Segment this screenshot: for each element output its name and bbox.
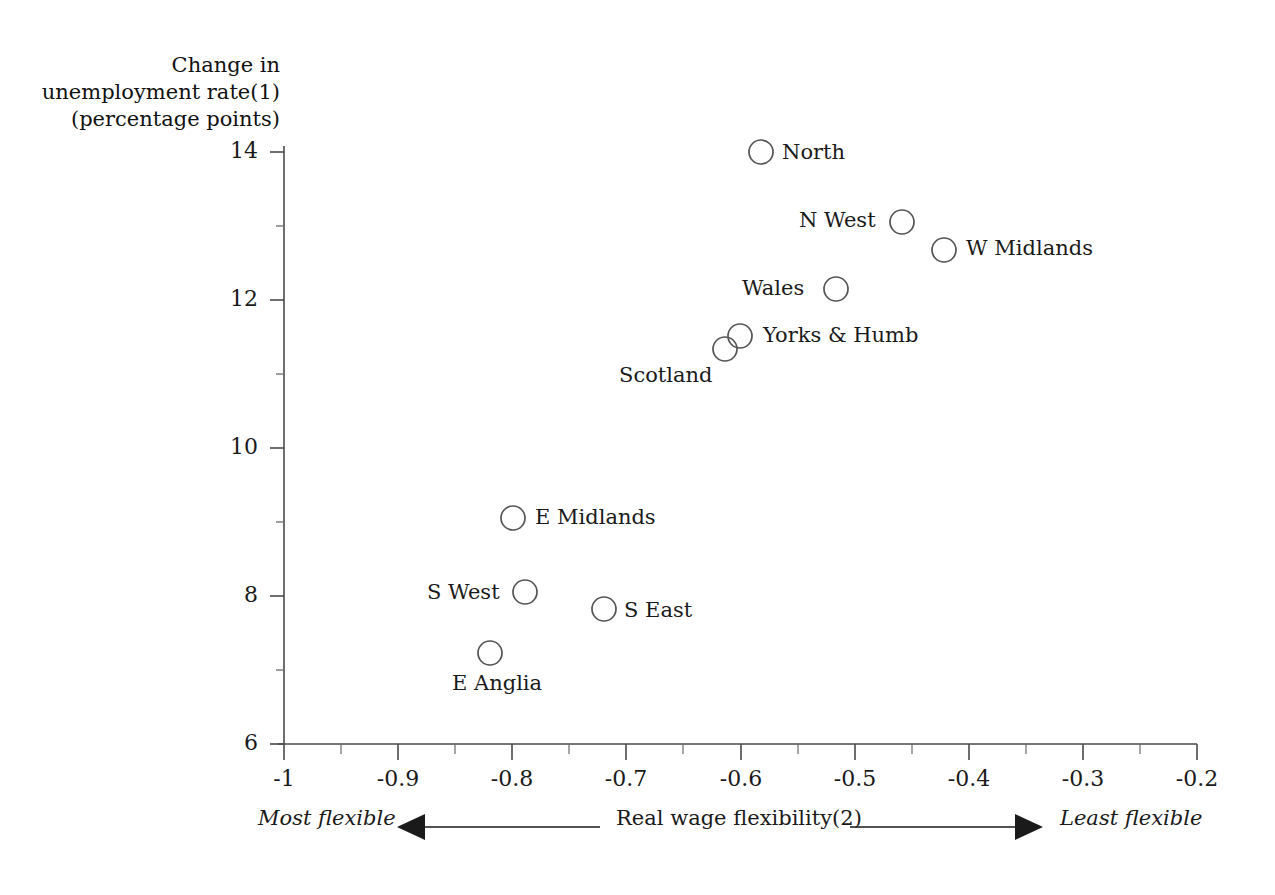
- point-label-e-midlands: E Midlands: [535, 505, 656, 529]
- marker-w-midlands[interactable]: [932, 238, 956, 262]
- x-tick-label-2: -0.8: [472, 766, 552, 791]
- point-label-wales: Wales: [742, 276, 804, 300]
- point-label-north: North: [782, 140, 845, 164]
- y-tick-label-10: 10: [210, 434, 258, 459]
- data-markers: [478, 140, 956, 665]
- x-axis-caption: Most flexible Real wage flexibility(2) L…: [0, 806, 1275, 846]
- point-label-w-midlands: W Midlands: [966, 236, 1093, 260]
- y-axis-major-ticks: [270, 152, 284, 744]
- marker-e-midlands[interactable]: [501, 506, 525, 530]
- x-tick-label-7: -0.3: [1043, 766, 1123, 791]
- marker-north[interactable]: [749, 140, 773, 164]
- y-tick-label-6: 6: [210, 730, 258, 755]
- x-tick-label-3: -0.7: [586, 766, 666, 791]
- marker-wales[interactable]: [824, 277, 848, 301]
- marker-s-west[interactable]: [513, 580, 537, 604]
- point-label-s-west: S West: [427, 580, 500, 604]
- plot-area: [0, 0, 1275, 895]
- x-tick-label-6: -0.4: [929, 766, 1009, 791]
- point-label-scotland: Scotland: [619, 363, 712, 387]
- marker-e-anglia[interactable]: [478, 641, 502, 665]
- point-label-n-west: N West: [799, 208, 876, 232]
- y-tick-label-14: 14: [210, 138, 258, 163]
- x-tick-label-1: -0.9: [358, 766, 438, 791]
- x-tick-label-0: -1: [244, 766, 324, 791]
- point-label-e-anglia: E Anglia: [452, 671, 542, 695]
- scatter-chart: Change in unemployment rate(1) (percenta…: [0, 0, 1275, 895]
- marker-scotland[interactable]: [713, 337, 737, 361]
- marker-yorks-humb[interactable]: [728, 324, 752, 348]
- x-axis-major-ticks: [284, 744, 1197, 760]
- marker-n-west[interactable]: [890, 210, 914, 234]
- point-label-s-east: S East: [624, 598, 692, 622]
- y-tick-label-8: 8: [210, 582, 258, 607]
- caption-most-flexible: Most flexible: [258, 806, 396, 830]
- x-tick-label-4: -0.6: [701, 766, 781, 791]
- y-tick-label-12: 12: [210, 286, 258, 311]
- caption-least-flexible: Least flexible: [1060, 806, 1202, 830]
- x-tick-label-5: -0.5: [815, 766, 895, 791]
- x-tick-label-8: -0.2: [1157, 766, 1237, 791]
- marker-s-east[interactable]: [592, 597, 616, 621]
- point-label-yorks-humb: Yorks & Humb: [763, 323, 918, 347]
- caption-axis-name: Real wage flexibility(2): [616, 806, 862, 830]
